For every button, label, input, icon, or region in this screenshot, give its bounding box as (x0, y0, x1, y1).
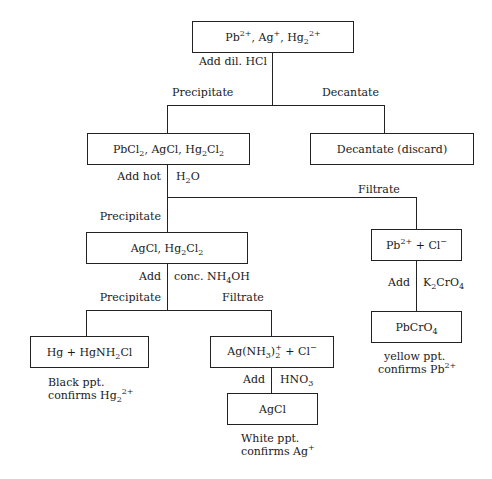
node-decantate-discard-label: Decantate (discard) (337, 143, 447, 156)
label-precipitate-2: Precipitate (90, 210, 161, 223)
node-ag-nh3: Ag(NH3)+2 + Cl− (210, 336, 334, 368)
node-ag-nh3-label: Ag(NH3)+2 + Cl− (227, 344, 316, 360)
connector (167, 197, 417, 198)
label-decantate: Decantate (322, 86, 379, 99)
flowchart: Pb2+, Ag+, Hg22+ Add dil. HCl Precipitat… (0, 0, 492, 479)
result-white-line2: confirms Ag+ (241, 445, 315, 458)
label-h2o: H2O (176, 170, 200, 183)
connector (167, 264, 168, 310)
label-filtrate-2: Filtrate (222, 291, 264, 304)
label-add-1: Add (120, 270, 161, 283)
label-add-2: Add (225, 373, 265, 386)
node-agcl-hg2cl2: AgCl, Hg2Cl2 (86, 232, 248, 264)
node-agcl-final-label: AgCl (259, 403, 286, 416)
node-agcl-final: AgCl (227, 393, 318, 425)
result-yellow-line1: yellow ppt. (384, 350, 445, 363)
result-white-line1: White ppt. (241, 432, 299, 445)
label-hno3: HNO3 (280, 373, 313, 386)
label-add-3: Add (370, 276, 410, 289)
label-k2cro4: K2CrO4 (423, 276, 464, 289)
node-start-label: Pb2+, Ag+, Hg22+ (225, 31, 320, 44)
connector (416, 261, 417, 315)
node-chlorides-label: PbCl2, AgCl, Hg2Cl2 (113, 143, 224, 156)
label-precipitate-3: Precipitate (90, 291, 161, 304)
node-decantate-discard: Decantate (discard) (310, 133, 474, 165)
connector (86, 310, 87, 339)
connector (86, 310, 272, 311)
connector (167, 105, 168, 134)
connector (167, 165, 168, 233)
node-pbcro4-label: PbCrO4 (395, 321, 437, 334)
result-yellow-line2: confirms Pb2+ (378, 363, 456, 376)
node-start: Pb2+, Ag+, Hg22+ (192, 21, 354, 53)
connector (272, 53, 273, 106)
label-filtrate-1: Filtrate (358, 183, 400, 196)
node-chlorides: PbCl2, AgCl, Hg2Cl2 (87, 133, 250, 165)
result-black-line2: confirms Hg22+ (48, 389, 134, 402)
label-add-dil-hcl: Add dil. HCl (180, 55, 267, 68)
node-pb-cl: Pb2+ + Cl− (371, 229, 462, 261)
connector (271, 310, 272, 339)
label-conc-nh4oh: conc. NH4OH (174, 270, 250, 283)
label-add-hot: Add hot (100, 170, 161, 183)
connector (271, 368, 272, 393)
node-pb-cl-label: Pb2+ + Cl− (386, 239, 447, 252)
result-black-line1: Black ppt. (48, 376, 104, 389)
node-pbcro4: PbCrO4 (371, 311, 462, 343)
label-precipitate-1: Precipitate (172, 86, 233, 99)
connector (416, 197, 417, 229)
node-hg-hgnh2cl: Hg + HgNH2Cl (30, 336, 149, 368)
node-hg-hgnh2cl-label: Hg + HgNH2Cl (47, 346, 133, 359)
node-agcl-hg2cl2-label: AgCl, Hg2Cl2 (131, 242, 204, 255)
connector (384, 105, 385, 134)
connector (167, 105, 385, 106)
